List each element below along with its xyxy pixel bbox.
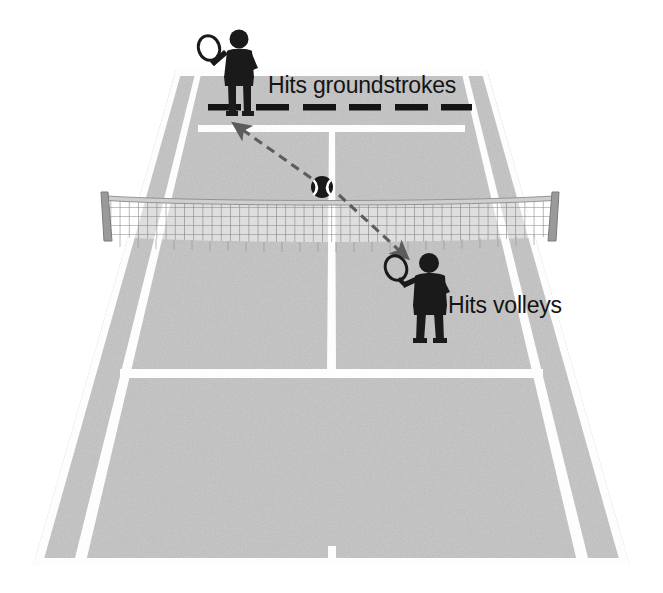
label-hits-volleys: Hits volleys — [448, 294, 562, 317]
tennis-ball — [311, 176, 333, 198]
center-mark — [328, 546, 336, 560]
tennis-court-diagram: Hits groundstrokes Hits volleys — [0, 0, 663, 593]
label-hits-groundstrokes: Hits groundstrokes — [268, 74, 456, 97]
